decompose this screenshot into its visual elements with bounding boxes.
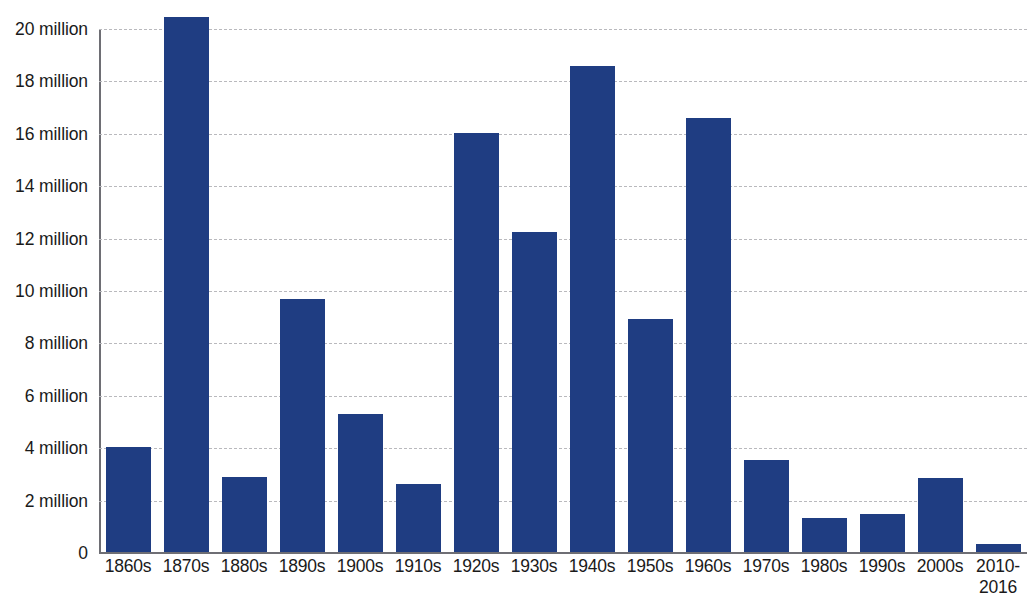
bar[interactable] [628,319,673,553]
y-tick-label: 16 million [15,123,88,144]
bar[interactable] [512,232,557,553]
x-tick-label: 2010-2016 [963,556,1033,598]
x-tick-label-line: 2010- [976,556,1020,576]
bar[interactable] [860,514,905,553]
x-tick-label-line: 2016 [963,577,1033,598]
x-tick-label-line: 1970s [743,556,790,576]
y-tick-label: 12 million [15,228,88,249]
y-tick-label: 0 [78,543,88,564]
y-tick-label: 18 million [15,71,88,92]
bar-chart: 02 million4 million6 million8 million10 … [0,0,1033,615]
y-tick-label: 8 million [25,333,88,354]
x-tick-label-line: 1950s [627,556,674,576]
bar[interactable] [164,17,209,553]
bar[interactable] [280,299,325,553]
bar[interactable] [396,484,441,553]
x-tick-label-line: 1930s [511,556,558,576]
x-tick-label-line: 1880s [221,556,268,576]
y-tick-label: 14 million [15,176,88,197]
bar[interactable] [338,414,383,553]
bar[interactable] [570,66,615,553]
x-tick-label-line: 1910s [395,556,442,576]
bar[interactable] [106,447,151,553]
bar[interactable] [454,133,499,554]
x-tick-label-line: 2000s [917,556,964,576]
bars-layer [99,0,1027,553]
x-tick-label-line: 1990s [859,556,906,576]
x-tick-label-line: 1860s [105,556,152,576]
y-tick-label: 6 million [25,385,88,406]
y-axis: 02 million4 million6 million8 million10 … [0,0,96,615]
y-tick-label: 4 million [25,438,88,459]
y-tick-label: 10 million [15,281,88,302]
plot-area [99,0,1027,553]
x-axis-line [99,552,1027,554]
x-tick-label-line: 1960s [685,556,732,576]
bar[interactable] [686,118,731,553]
bar[interactable] [744,460,789,553]
y-tick-label: 20 million [15,19,88,40]
x-tick-label-line: 1890s [279,556,326,576]
x-tick-label-line: 1900s [337,556,384,576]
bar[interactable] [222,477,267,553]
y-tick-label: 2 million [25,490,88,511]
x-tick-label-line: 1920s [453,556,500,576]
x-tick-label-line: 1870s [163,556,210,576]
x-axis: 1860s1870s1880s1890s1900s1910s1920s1930s… [99,556,1027,615]
x-tick-label-line: 1980s [801,556,848,576]
bar[interactable] [918,478,963,553]
x-tick-label-line: 1940s [569,556,616,576]
bar[interactable] [802,518,847,553]
